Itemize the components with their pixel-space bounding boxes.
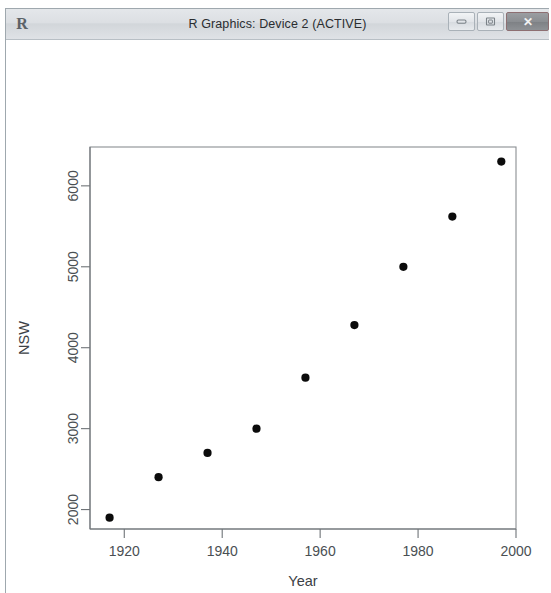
close-button[interactable]: ✕ <box>506 12 549 31</box>
r-logo-icon: R <box>12 14 32 34</box>
x-tick-label: 1980 <box>402 543 433 559</box>
data-point <box>252 425 260 433</box>
x-axis: 19201940196019802000 Year <box>90 529 532 589</box>
y-axis-ticks <box>81 186 90 510</box>
x-tick-label: 1960 <box>305 543 336 559</box>
plot-panel-box <box>90 147 516 529</box>
x-tick-label: 1940 <box>207 543 238 559</box>
y-axis-title: NSW <box>16 321 32 355</box>
y-tick-label: 3000 <box>65 413 81 444</box>
plot-svg: 19201940196019802000 Year 20003000400050… <box>6 40 549 593</box>
maximize-button[interactable] <box>477 12 504 31</box>
y-tick-label: 2000 <box>65 494 81 525</box>
y-axis-tick-labels: 20003000400050006000 <box>65 170 81 525</box>
y-tick-label: 5000 <box>65 251 81 282</box>
x-axis-ticks <box>124 529 516 538</box>
data-point <box>105 514 113 522</box>
close-icon: ✕ <box>523 16 533 28</box>
data-point <box>203 449 211 457</box>
data-point <box>448 213 456 221</box>
x-axis-tick-labels: 19201940196019802000 <box>109 543 532 559</box>
y-tick-label: 6000 <box>65 170 81 201</box>
data-point-series <box>105 157 505 521</box>
data-point <box>497 157 505 165</box>
data-point <box>399 263 407 271</box>
x-tick-label: 1920 <box>109 543 140 559</box>
data-point <box>154 473 162 481</box>
scatter-plot: 19201940196019802000 Year 20003000400050… <box>6 40 549 593</box>
r-graphics-window: R R Graphics: Device 2 (ACTIVE) ✕ <box>5 8 549 593</box>
window-controls: ✕ <box>448 12 549 31</box>
y-axis: 20003000400050006000 NSW <box>16 147 90 529</box>
data-point <box>350 321 358 329</box>
y-tick-label: 4000 <box>65 332 81 363</box>
minimize-button[interactable] <box>448 12 475 31</box>
x-tick-label: 2000 <box>500 543 531 559</box>
graphics-client-area: 19201940196019802000 Year 20003000400050… <box>6 40 549 593</box>
window-titlebar[interactable]: R R Graphics: Device 2 (ACTIVE) ✕ <box>6 9 549 40</box>
data-point <box>301 374 309 382</box>
x-axis-title: Year <box>288 573 317 589</box>
